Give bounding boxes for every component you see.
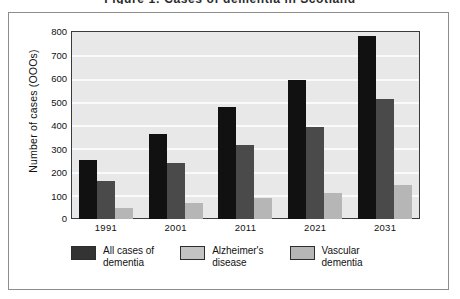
chart-legend: All cases of dementiaAlzheimer's disease…: [71, 245, 431, 268]
y-tick-label: 300: [33, 143, 67, 154]
legend-swatch-icon: [71, 246, 96, 260]
chart-title: Figure 1: Cases of dementia in Scotland: [0, 0, 460, 4]
y-tick-label-zero: 0: [53, 213, 67, 224]
legend-item[interactable]: Alzheimer's disease: [180, 245, 263, 268]
y-tick-label: 500: [33, 96, 67, 107]
x-tick-label: 2011: [212, 222, 278, 233]
x-tick-label: 1991: [73, 222, 139, 233]
x-tick-label: 2021: [282, 222, 348, 233]
y-tick-label: 600: [33, 73, 67, 84]
gridline: [72, 195, 419, 197]
y-tick-label: 200: [33, 167, 67, 178]
legend-swatch-icon: [290, 246, 315, 260]
gridline: [72, 102, 419, 104]
legend-item[interactable]: Vascular dementia: [290, 245, 363, 268]
gridline: [72, 172, 419, 174]
plot-area: [71, 31, 420, 219]
legend-label: Alzheimer's disease: [212, 245, 263, 268]
gridline: [72, 55, 419, 57]
legend-swatch-icon: [180, 246, 205, 260]
y-tick-label: 700: [33, 49, 67, 60]
x-tick-label: 2001: [143, 222, 209, 233]
legend-item[interactable]: All cases of dementia: [71, 245, 154, 268]
gridline: [72, 125, 419, 127]
x-axis-ticks: 19912001201120212031: [71, 222, 420, 233]
legend-label: Vascular dementia: [322, 245, 363, 268]
y-tick-label: 800: [33, 26, 67, 37]
legend-label: All cases of dementia: [103, 245, 154, 268]
chart-frame: Number of cases (OOOs) 80070060050040030…: [8, 12, 449, 290]
y-axis-ticks: 800700600500400300200100: [27, 31, 67, 219]
figure-container: Figure 1: Cases of dementia in Scotland …: [0, 0, 460, 299]
y-tick-label: 400: [33, 120, 67, 131]
gridline: [72, 148, 419, 150]
x-tick-label: 2031: [352, 222, 418, 233]
y-tick-label: 100: [33, 190, 67, 201]
gridline: [72, 79, 419, 81]
